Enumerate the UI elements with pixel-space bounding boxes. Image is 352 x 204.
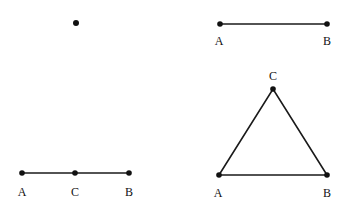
point-c — [72, 170, 78, 176]
point-dot — [73, 20, 79, 26]
label-a: A — [18, 185, 27, 199]
label-c: C — [269, 69, 277, 83]
label-b: B — [125, 185, 133, 199]
triangle-abc-shape — [219, 89, 327, 175]
point-a — [216, 172, 222, 178]
panel-segment-acb: A C B — [18, 170, 133, 199]
point-b — [126, 170, 132, 176]
panel-point — [73, 20, 79, 26]
geometry-diagram: A B A C B A B C — [0, 0, 352, 204]
panel-segment-ab: A B — [215, 21, 331, 48]
label-b: B — [323, 34, 331, 48]
point-a — [217, 21, 223, 27]
label-a: A — [214, 186, 223, 200]
label-b: B — [323, 186, 331, 200]
point-c — [270, 86, 276, 92]
panel-triangle-abc: A B C — [214, 69, 331, 200]
point-b — [324, 21, 330, 27]
label-a: A — [215, 34, 224, 48]
point-a — [19, 170, 25, 176]
label-c: C — [71, 185, 79, 199]
point-b — [324, 172, 330, 178]
